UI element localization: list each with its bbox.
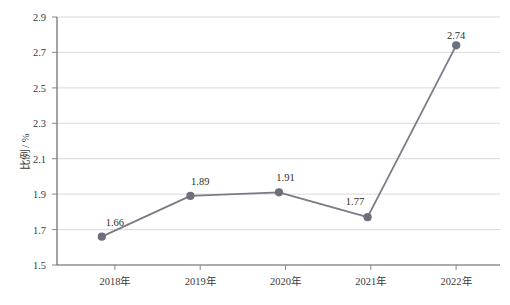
- y-tick-label-5: 2.5: [33, 83, 46, 94]
- y-axis-title: 比例 / %: [19, 133, 31, 170]
- y-tick-label-0: 1.5: [33, 260, 46, 271]
- point-label-3: 1.77: [346, 196, 364, 207]
- data-point-2019年: [186, 192, 194, 200]
- data-point-2020年: [275, 188, 283, 196]
- point-label-0: 1.66: [106, 217, 124, 228]
- point-label-2: 1.91: [276, 172, 294, 183]
- x-tick-label-1: 2019年: [185, 275, 216, 287]
- x-tick-label-2: 2020年: [270, 275, 301, 287]
- y-tick-label-6: 2.7: [33, 47, 46, 58]
- point-label-4: 2.74: [447, 30, 466, 41]
- x-tick-label-4: 2022年: [441, 275, 472, 287]
- point-label-1: 1.89: [191, 176, 209, 187]
- y-tick-label-1: 1.7: [33, 225, 46, 236]
- line-chart: 2.9 2.7 2.5 2.3 2.1 1.9 1.7 1.5 比例 / % 2…: [0, 0, 510, 305]
- y-tick-label-2: 1.9: [33, 189, 46, 200]
- y-tick-label-3: 2.1: [33, 154, 46, 165]
- data-point-2018年: [98, 233, 106, 241]
- y-tick-label-4: 2.3: [33, 118, 46, 129]
- chart-canvas: 2.9 2.7 2.5 2.3 2.1 1.9 1.7 1.5 比例 / % 2…: [0, 0, 510, 305]
- chart-background: [0, 0, 510, 305]
- data-point-2022年: [452, 41, 460, 49]
- y-tick-label-7: 2.9: [33, 12, 46, 23]
- x-tick-label-0: 2018年: [99, 275, 130, 287]
- data-point-2021年: [364, 213, 372, 221]
- x-tick-label-3: 2021年: [355, 275, 386, 287]
